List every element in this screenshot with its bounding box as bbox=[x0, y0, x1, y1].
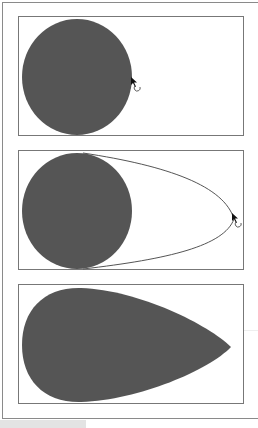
circle-shape bbox=[19, 17, 245, 137]
egg-shape bbox=[19, 285, 245, 405]
panel-step-1 bbox=[18, 16, 244, 136]
panel-step-2 bbox=[18, 150, 244, 270]
panel-step-3 bbox=[18, 284, 244, 404]
footer-block bbox=[0, 420, 86, 428]
rotate-drag-cursor-icon bbox=[131, 77, 140, 91]
circle-drag-preview bbox=[19, 151, 245, 271]
